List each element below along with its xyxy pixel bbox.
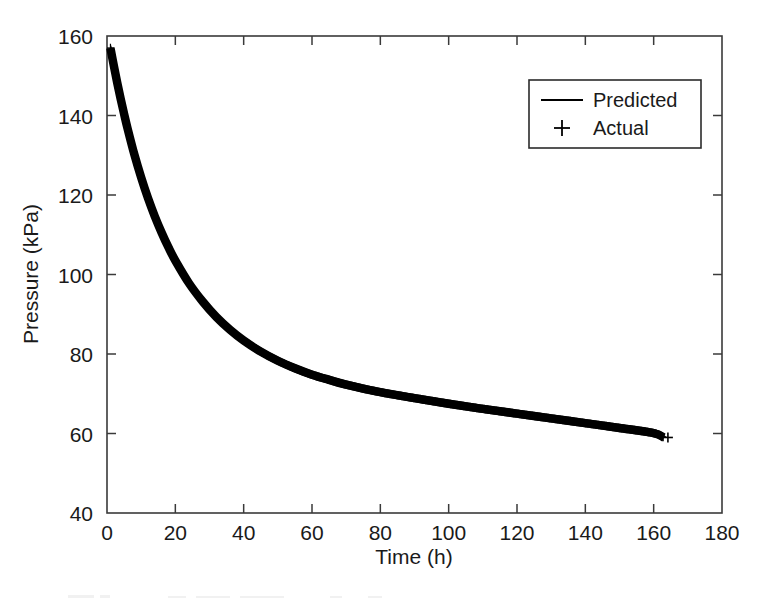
x-axis-title: Time (h) — [375, 545, 452, 568]
y-tick-label: 160 — [58, 25, 93, 48]
pressure-vs-time-chart: 020406080100120140160180 406080100120140… — [0, 0, 761, 603]
x-tick-label: 80 — [369, 521, 392, 544]
x-tick-label: 20 — [164, 521, 187, 544]
x-tick-label: 60 — [300, 521, 323, 544]
x-tick-label: 160 — [636, 521, 671, 544]
x-tick-label: 40 — [232, 521, 255, 544]
x-tick-label: 100 — [431, 521, 466, 544]
figure-container: 020406080100120140160180 406080100120140… — [0, 0, 761, 603]
y-tick-label: 40 — [70, 502, 93, 525]
legend-label-actual: Actual — [593, 117, 649, 139]
legend[interactable]: Predicted Actual — [529, 80, 701, 148]
y-tick-label: 60 — [70, 423, 93, 446]
x-tick-label: 0 — [101, 521, 113, 544]
x-tick-label: 120 — [499, 521, 534, 544]
legend-label-predicted: Predicted — [593, 89, 678, 111]
y-tick-label: 140 — [58, 105, 93, 128]
x-tick-label: 140 — [568, 521, 603, 544]
y-axis-title: Pressure (kPa) — [19, 204, 42, 344]
y-tick-label: 80 — [70, 343, 93, 366]
y-tick-label: 120 — [58, 184, 93, 207]
x-tick-label: 180 — [704, 521, 739, 544]
y-tick-label: 100 — [58, 264, 93, 287]
